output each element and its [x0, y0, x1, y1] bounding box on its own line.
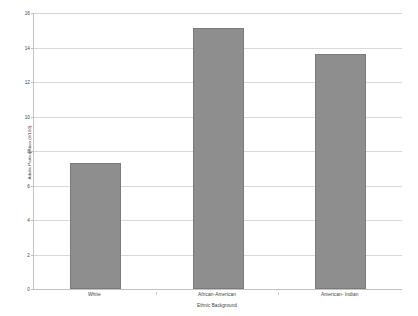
x-axis-tick-label: White: [88, 292, 101, 297]
y-axis-tick-label: 4: [8, 218, 30, 223]
y-axis-tick-label: 10: [8, 114, 30, 119]
bar-series: [34, 13, 402, 289]
x-axis-tick-label: African-American: [198, 292, 236, 297]
bar-chart: Adults Participation (#/100) 02468101214…: [0, 0, 418, 316]
y-axis-tick-label: 8: [8, 149, 30, 154]
x-axis-tickmark: [278, 292, 279, 295]
plot-area: [33, 13, 402, 290]
bar: [315, 54, 366, 289]
y-axis-tick-label: 16: [8, 11, 30, 16]
x-axis-tick-label: American- Indian: [321, 292, 359, 297]
y-axis-tickmark: [31, 289, 34, 290]
y-axis-tick-label: 12: [8, 80, 30, 85]
x-axis-title: Ethnic Background: [33, 303, 401, 308]
y-axis-tick-label: 2: [8, 252, 30, 257]
x-axis-tickmark: [156, 292, 157, 295]
bar: [193, 28, 244, 289]
y-axis-tick-label: 14: [8, 45, 30, 50]
y-axis-tick-label: 6: [8, 183, 30, 188]
bar: [70, 163, 121, 289]
y-axis-tick-label: 0: [8, 287, 30, 292]
y-axis-tick-labels: 0246810121416: [8, 0, 30, 316]
